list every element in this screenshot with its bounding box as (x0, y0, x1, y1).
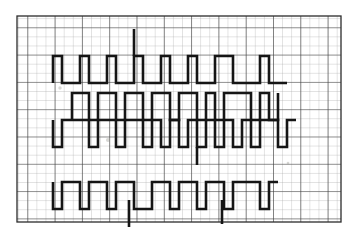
waveform-chart (0, 0, 360, 238)
smudge-center (106, 138, 110, 142)
smudge-right (287, 162, 290, 165)
screenshot-canvas (0, 0, 360, 238)
smudge-upper-left (58, 86, 61, 89)
